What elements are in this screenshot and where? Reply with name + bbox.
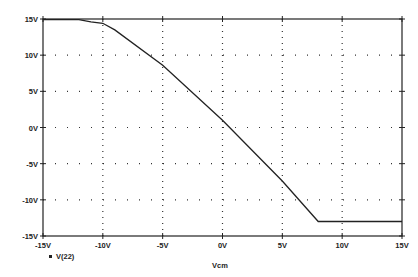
x-tick-label: -10V bbox=[95, 241, 111, 250]
legend-label: V(22) bbox=[56, 252, 75, 261]
x-tick-label: -5V bbox=[157, 241, 169, 250]
x-tick-label: -15V bbox=[35, 241, 51, 250]
y-tick-label: 15V bbox=[25, 15, 38, 24]
y-tick-label: -5V bbox=[26, 160, 38, 169]
y-tick-label: 0V bbox=[29, 124, 38, 133]
x-tick-label: 0V bbox=[218, 241, 227, 250]
x-tick-label: 5V bbox=[278, 241, 287, 250]
y-tick-label: -15V bbox=[22, 232, 38, 241]
x-tick-label: 15V bbox=[395, 241, 408, 250]
x-tick-label: 10V bbox=[335, 241, 348, 250]
grid-lines bbox=[43, 19, 402, 236]
x-axis-ticks: -15V-10V-5V0V5V10V15V bbox=[35, 16, 409, 250]
y-tick-label: 5V bbox=[29, 87, 38, 96]
chart: 15V10V5V0V-5V-10V-15V -15V-10V-5V0V5V10V… bbox=[0, 0, 418, 277]
y-tick-label: 10V bbox=[25, 51, 38, 60]
y-tick-label: -10V bbox=[22, 196, 38, 205]
x-axis-label: Vcm bbox=[212, 261, 228, 270]
legend-marker bbox=[49, 255, 52, 258]
